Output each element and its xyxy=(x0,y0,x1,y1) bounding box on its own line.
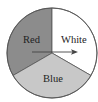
spinner-diagram: Red White Blue xyxy=(0,0,98,102)
label-blue: Blue xyxy=(43,73,63,84)
label-white: White xyxy=(61,34,87,45)
label-red: Red xyxy=(23,34,41,45)
